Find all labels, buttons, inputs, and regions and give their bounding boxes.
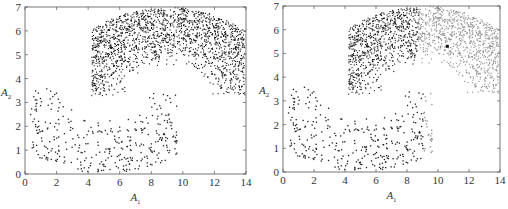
- y-tick-label: 1: [274, 142, 280, 154]
- scatter-points: [288, 6, 500, 170]
- y-tick-label: 7: [16, 1, 22, 13]
- y-tick-label: 5: [16, 49, 22, 61]
- x-axis-label: A1: [385, 189, 397, 204]
- y-tick-label: 0: [16, 168, 22, 180]
- y-tick-label: 6: [16, 25, 22, 37]
- x-tick-label: 12: [464, 174, 475, 186]
- x-tick-label: 4: [85, 176, 91, 188]
- axes-frame: [283, 6, 500, 172]
- scatter-points: [30, 7, 246, 172]
- axes-frame: [25, 7, 246, 174]
- x-tick-label: 6: [373, 174, 379, 186]
- y-tick-label: 0: [274, 166, 280, 178]
- x-tick-label: 14: [495, 174, 507, 186]
- y-tick-label: 3: [16, 96, 22, 108]
- y-tick-label: 4: [274, 71, 280, 83]
- y-tick-label: 7: [274, 0, 280, 12]
- x-tick-label: 14: [241, 176, 253, 188]
- y-tick-label: 4: [16, 73, 22, 85]
- x-tick-label: 10: [433, 174, 445, 186]
- right-clustered-scatter-plot: 0246810121401234567A1A2: [254, 0, 508, 209]
- x-tick-label: 0: [280, 174, 286, 186]
- x-tick-label: 0: [22, 176, 28, 188]
- left-scatter-plot: 0246810121401234567A1A2: [0, 0, 254, 209]
- y-tick-label: 3: [274, 95, 280, 107]
- x-tick-label: 2: [54, 176, 60, 188]
- x-tick-label: 8: [149, 176, 155, 188]
- y-tick-label: 1: [16, 144, 22, 156]
- x-tick-label: 2: [311, 174, 317, 186]
- outlier-point: [446, 45, 449, 48]
- y-axis-label: A2: [0, 86, 12, 101]
- y-tick-label: 2: [274, 119, 280, 131]
- x-tick-label: 4: [342, 174, 348, 186]
- y-tick-label: 6: [274, 24, 280, 36]
- x-tick-label: 8: [404, 174, 410, 186]
- right-scatter-panel: 0246810121401234567A1A2: [254, 0, 508, 209]
- x-tick-label: 6: [117, 176, 123, 188]
- x-tick-label: 10: [177, 176, 189, 188]
- x-axis-label: A1: [129, 191, 141, 206]
- y-axis-label: A2: [258, 84, 270, 99]
- left-scatter-panel: 0246810121401234567A1A2: [0, 0, 254, 209]
- y-tick-label: 2: [16, 120, 22, 132]
- x-tick-label: 12: [209, 176, 220, 188]
- y-tick-label: 5: [274, 47, 280, 59]
